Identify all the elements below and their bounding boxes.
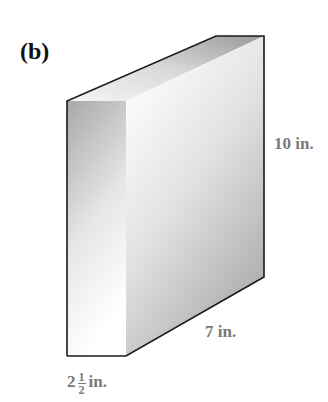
length-label: 7 in. — [205, 322, 236, 342]
front-face — [67, 101, 126, 356]
width-fraction: 12 — [78, 371, 86, 396]
width-label: 212in. — [67, 371, 107, 396]
fraction-denominator: 2 — [78, 384, 86, 396]
height-label: 10 in. — [274, 134, 314, 154]
box-diagram — [0, 0, 328, 402]
width-unit: in. — [89, 372, 107, 391]
width-whole: 2 — [67, 372, 76, 391]
